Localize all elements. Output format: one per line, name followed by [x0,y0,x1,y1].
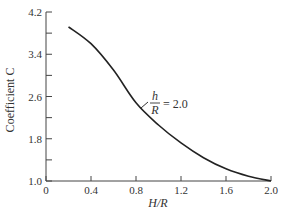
y-tick-label: 3.4 [28,48,42,60]
x-axis-label: H/R [147,196,168,210]
chart: 1.01.82.63.44.200.40.81.21.62.0 hR= 2.0 … [0,0,292,214]
x-tick-label: 0.4 [84,184,98,196]
y-tick-label: 4.2 [28,6,42,18]
y-tick-label: 1.0 [28,175,42,187]
y-axis-label: Coefficient C [3,68,17,133]
svg-text:= 2.0: = 2.0 [163,97,188,111]
x-tick-label: 0 [43,184,49,196]
x-tick-label: 1.2 [174,184,188,196]
svg-text:h: h [152,89,158,103]
svg-text:R: R [150,103,159,117]
x-tick-label: 0.8 [129,184,143,196]
x-tick-label: 2.0 [264,184,278,196]
x-tick-label: 1.6 [219,184,233,196]
y-tick-label: 1.8 [28,133,42,145]
y-tick-label: 2.6 [28,91,42,103]
curve-annotation: hR= 2.0 [141,89,188,117]
